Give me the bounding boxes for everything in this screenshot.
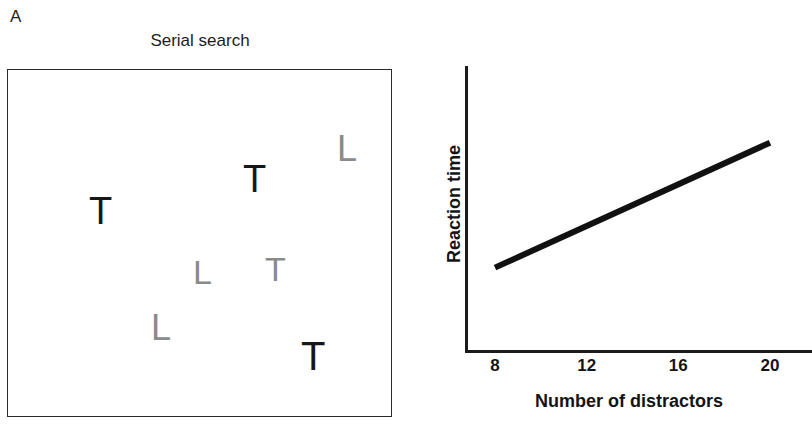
panel-a-title: Serial search	[7, 32, 393, 49]
reaction-time-chart: Reaction time 8121620Number of distracto…	[406, 0, 812, 432]
x-axis-title: Number of distractors	[446, 392, 812, 410]
panel-b: B Reaction time 8121620Number of distrac…	[406, 0, 812, 432]
panel-a-letter: A	[10, 8, 21, 25]
y-axis-title: Reaction time	[445, 94, 463, 314]
x-tick-label-8: 8	[475, 357, 515, 374]
search-stimulus-t-6: T	[301, 336, 325, 376]
x-tick-label-16: 16	[658, 357, 698, 374]
search-display-box: TTLLTLT	[7, 69, 392, 417]
x-tick-label-20: 20	[750, 357, 790, 374]
search-stimulus-l-5: L	[151, 310, 171, 346]
figure-root: A Serial search TTLLTLT B Reaction time …	[0, 0, 812, 432]
trend-line	[495, 143, 770, 268]
panel-a: A Serial search TTLLTLT	[0, 0, 406, 432]
search-stimulus-l-3: L	[193, 255, 212, 289]
search-stimulus-t-1: T	[243, 160, 266, 198]
search-stimulus-t-0: T	[89, 192, 112, 230]
x-tick-label-12: 12	[567, 357, 607, 374]
search-stimulus-l-2: L	[337, 131, 357, 167]
search-stimulus-t-4: T	[265, 252, 286, 286]
